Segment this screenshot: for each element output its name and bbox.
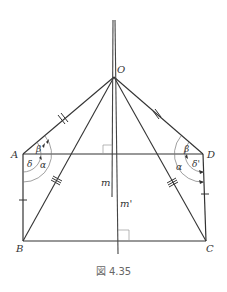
label-m: m (101, 177, 110, 188)
label-d: D (206, 149, 215, 160)
right-angle-bc (118, 230, 129, 241)
right-angle-ad (103, 145, 112, 154)
label-c: C (206, 243, 214, 254)
segment-oa (23, 77, 114, 154)
angle-beta-right: β (183, 144, 189, 154)
bisector-lines (112, 20, 118, 254)
segment-dc (203, 154, 206, 241)
geometry-figure: O A D B C m m' β δ α β δ' α (0, 0, 227, 292)
angle-delta-right: δ' (192, 159, 200, 169)
segment-ob (23, 77, 114, 241)
right-angle-markers (103, 145, 129, 241)
label-o: O (117, 64, 125, 75)
label-m-prime: m' (120, 198, 132, 209)
label-a: A (10, 149, 18, 160)
angle-alpha-left: α (40, 160, 46, 170)
segments-from-o (23, 77, 206, 241)
figure-caption: 図 4.35 (0, 263, 227, 278)
angle-beta-left: β (35, 144, 41, 154)
label-b: B (15, 243, 23, 254)
line-m (112, 20, 113, 197)
angle-alpha-right: α (176, 162, 182, 172)
line-m-prime (115, 20, 118, 254)
angle-delta-left: δ (27, 159, 32, 169)
segment-od (114, 77, 203, 154)
